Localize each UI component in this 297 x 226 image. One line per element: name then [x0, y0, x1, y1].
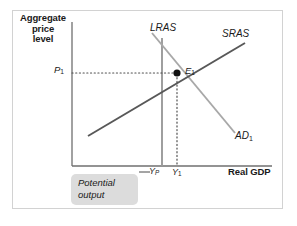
sras-curve — [88, 43, 245, 136]
potential-output-tick-subscript: P — [155, 169, 159, 176]
x-axis-title: Real GDP — [228, 167, 271, 178]
y-axis-title-line-3: level — [33, 33, 54, 44]
ad1-curve — [152, 33, 235, 133]
ad1-curve-label-subscript: 1 — [249, 135, 253, 142]
sras-curve-label: SRAS — [222, 28, 249, 39]
equilibrium-point-label: E1 — [185, 66, 195, 77]
potential-output-callout-line-1: Potential — [78, 177, 115, 188]
y-axis-title-line-1: Aggregate — [20, 12, 66, 23]
potential-output-tick-label: YP — [149, 166, 159, 176]
y-axis-title: Aggregate price level — [16, 13, 70, 45]
price-level-tick-subscript: 1 — [60, 68, 64, 75]
equilibrium-point-marker — [173, 69, 180, 76]
potential-output-callout-line-2: output — [78, 189, 104, 200]
price-level-tick-label: P1 — [54, 65, 64, 76]
actual-output-tick-label: Y1 — [172, 167, 182, 177]
potential-output-callout: Potential output — [71, 174, 138, 205]
actual-output-tick-subscript: 1 — [178, 170, 182, 177]
ad1-curve-label: AD1 — [235, 130, 253, 142]
y-axis-title-line-2: price — [32, 23, 54, 34]
lras-curve-label: LRAS — [150, 22, 176, 33]
figure-container: Aggregate price level Real GDP LRAS SRAS… — [0, 0, 297, 226]
equilibrium-point-label-subscript: 1 — [191, 69, 195, 76]
ad1-curve-label-text: AD — [235, 130, 249, 141]
